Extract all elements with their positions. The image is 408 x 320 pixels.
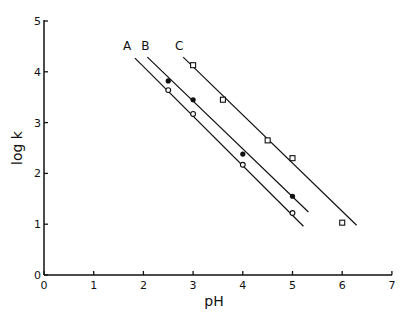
x-tick-label: 0: [41, 279, 48, 292]
line-label-a: A: [123, 39, 132, 53]
open-circle-marker: [240, 162, 245, 167]
filled-circle-marker: [166, 78, 171, 83]
y-tick-label: 2: [34, 167, 41, 180]
square-marker: [290, 156, 295, 161]
open-circle-marker: [166, 88, 171, 93]
x-tick-label: 4: [239, 279, 246, 292]
fit-line-b: [147, 57, 308, 212]
chart: 01234567012345 pH log k ABC: [0, 0, 408, 320]
x-tick-label: 5: [289, 279, 296, 292]
x-tick-label: 1: [90, 279, 97, 292]
axes: [44, 20, 392, 275]
square-marker: [220, 97, 225, 102]
x-tick-label: 2: [140, 279, 147, 292]
x-tick-label: 3: [190, 279, 197, 292]
filled-circle-marker: [240, 151, 245, 156]
square-marker: [265, 138, 270, 143]
line-label-b: B: [141, 39, 149, 53]
y-tick-label: 5: [34, 15, 41, 28]
open-circle-marker: [290, 211, 295, 216]
filled-circle-marker: [290, 194, 295, 199]
y-axis-label: log k: [9, 130, 25, 165]
y-tick-label: 3: [34, 117, 41, 130]
y-tick-label: 0: [34, 269, 41, 282]
x-tick-label: 7: [388, 279, 395, 292]
square-marker: [340, 220, 345, 225]
x-tick-label: 6: [339, 279, 346, 292]
data-markers: [166, 63, 345, 225]
y-tick-label: 1: [34, 218, 41, 231]
fit-line-a: [135, 58, 303, 226]
filled-circle-marker: [191, 97, 196, 102]
open-circle-marker: [191, 112, 196, 117]
square-marker: [191, 63, 196, 68]
y-tick-label: 4: [34, 66, 41, 79]
line-label-c: C: [175, 39, 183, 53]
tick-labels: 01234567012345: [34, 15, 395, 292]
x-axis-label: pH: [204, 293, 223, 309]
line-labels: ABC: [123, 39, 183, 53]
ticks: [44, 21, 392, 275]
